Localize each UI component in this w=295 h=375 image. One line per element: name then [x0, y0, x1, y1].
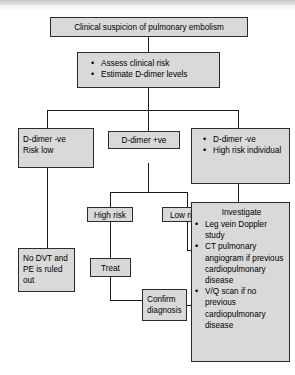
- node-ddimer-negative-high-risk-list: D-dimer -ve High risk individual: [202, 134, 285, 156]
- node-treat-label: Treat: [91, 259, 130, 276]
- connector-branch-right-drop: [238, 110, 239, 128]
- connector-branch-left-drop: [47, 110, 48, 128]
- connector-lowrisk-drop: [187, 192, 188, 207]
- connector-ddimerneghigh-to-investigate: [238, 184, 239, 202]
- node-assess-item-0: Assess clinical risk: [90, 58, 215, 69]
- node-investigate: Investigate Leg vein Doppler study CT pu…: [191, 202, 290, 362]
- node-assess-item-1: Estimate D-dimer levels: [90, 69, 215, 80]
- scan-band-fade: [0, 7, 295, 11]
- connector-risk-split-bar: [110, 192, 187, 193]
- connector-ddimerneglow-to-nodvt: [47, 168, 48, 248]
- node-investigate-header: Investigate: [197, 207, 286, 218]
- node-assess-list: Assess clinical risk Estimate D-dimer le…: [90, 58, 215, 80]
- node-confirm-diagnosis: Confirm diagnosis: [142, 289, 187, 321]
- node-clinical-suspicion: Clinical suspicion of pulmonary embolism: [50, 17, 248, 37]
- node-ddimer-negative-low-risk-line2: Risk low: [23, 145, 89, 156]
- connector-highrisk-drop: [110, 192, 111, 207]
- node-investigate-list: Leg vein Doppler study CT pulmonary angi…: [197, 219, 286, 331]
- node-ddimer-positive-label: D-dimer +ve: [109, 132, 179, 148]
- node-ddimer-negative-low-risk-line1: D-dimer -ve: [23, 134, 89, 145]
- node-ddimer-negative-high-risk-item-0: D-dimer -ve: [202, 134, 285, 145]
- node-investigate-item-1: CT pulmonary angiogram if previous cardi…: [197, 241, 286, 286]
- connector-branch-bar: [47, 110, 238, 111]
- node-no-dvt-pe-ruled-out-label: No DVT and PE is ruled out: [19, 249, 74, 288]
- node-high-risk: High risk: [87, 207, 133, 222]
- node-clinical-suspicion-label: Clinical suspicion of pulmonary embolism: [51, 18, 247, 35]
- node-ddimer-negative-low-risk: D-dimer -ve Risk low: [18, 128, 94, 168]
- node-ddimer-negative-high-risk-item-1: High risk individual: [202, 145, 285, 156]
- node-ddimer-negative-high-risk: D-dimer -ve High risk individual: [191, 128, 290, 184]
- node-assess: Assess clinical risk Estimate D-dimer le…: [77, 52, 220, 88]
- node-high-risk-label: High risk: [88, 208, 132, 223]
- flowchart-canvas: Clinical suspicion of pulmonary embolism…: [0, 0, 295, 375]
- scan-band-top: [0, 0, 295, 7]
- connector-suspicion-to-assess: [148, 37, 149, 52]
- node-no-dvt-pe-ruled-out: No DVT and PE is ruled out: [18, 248, 75, 292]
- connector-highrisk-to-treat: [110, 222, 111, 258]
- connector-treat-down: [110, 277, 111, 300]
- node-investigate-item-0: Leg vein Doppler study: [197, 219, 286, 241]
- node-investigate-item-2: V/Q scan if no previous cardiopulmonary …: [197, 286, 286, 331]
- node-confirm-diagnosis-line2: diagnosis: [147, 305, 182, 316]
- node-ddimer-positive: D-dimer +ve: [108, 131, 180, 149]
- connector-ddimerpos-down: [148, 163, 149, 192]
- node-treat: Treat: [90, 258, 131, 277]
- connector-assess-down: [148, 88, 149, 110]
- connector-treat-to-confirm: [110, 300, 143, 301]
- node-confirm-diagnosis-line1: Confirm: [147, 294, 182, 305]
- connector-lowrisk-down: [187, 222, 188, 250]
- connector-branch-mid-drop: [148, 110, 149, 131]
